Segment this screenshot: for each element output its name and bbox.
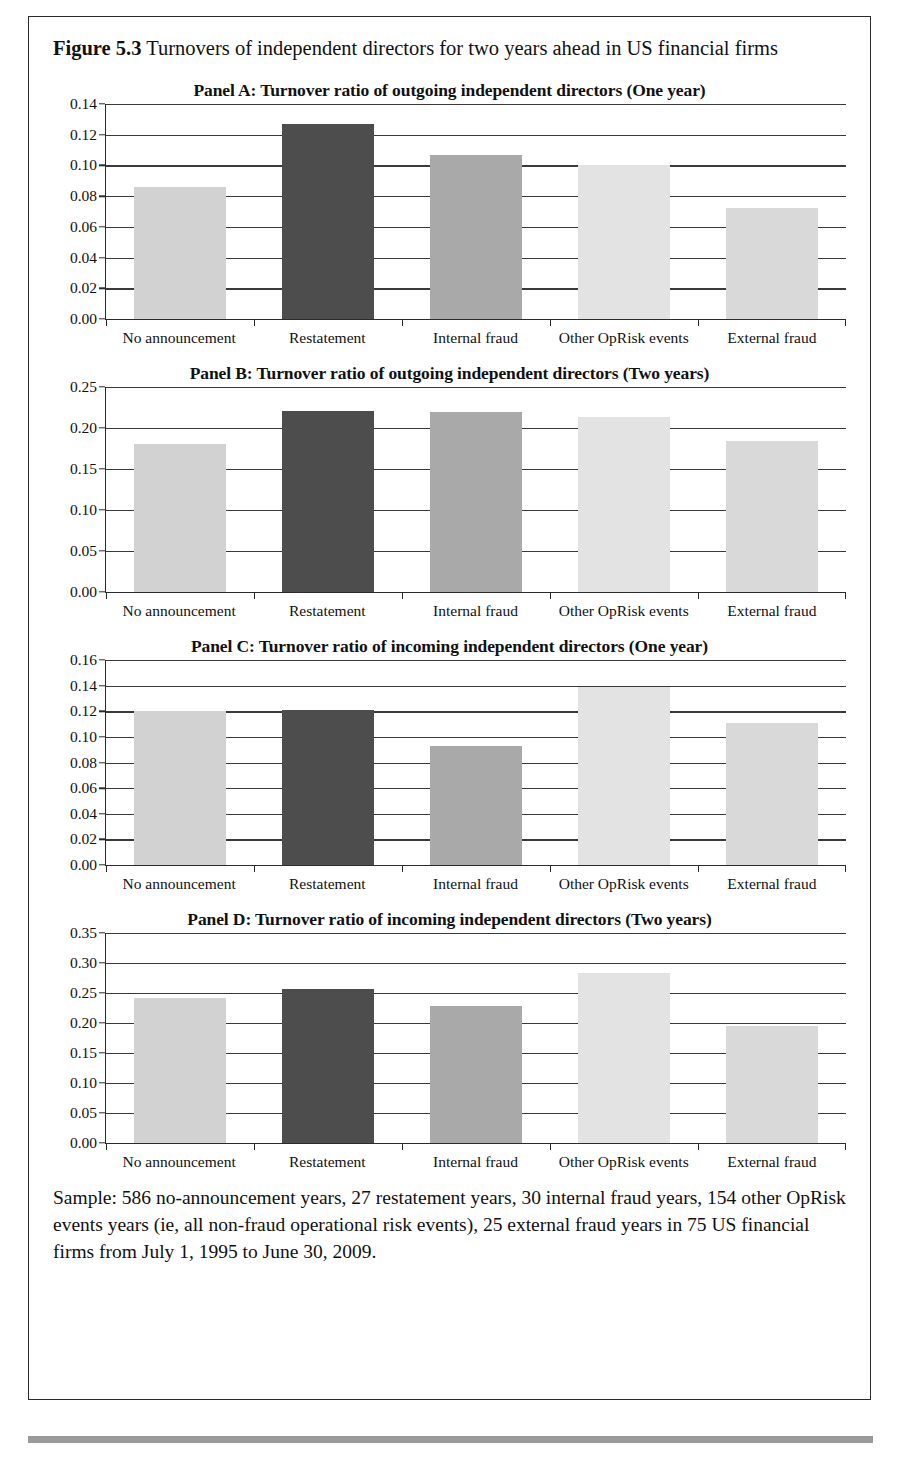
bar-internal-fraud xyxy=(430,155,522,319)
x-axis-tick-label: Other OpRisk events xyxy=(550,1153,698,1171)
bar-slot xyxy=(254,387,402,592)
bar-no-announcement xyxy=(134,711,226,865)
y-axis-tick-label: 0.02 xyxy=(70,832,97,848)
panel-panel-a: Panel A: Turnover ratio of outgoing inde… xyxy=(53,80,846,347)
y-axis-tick-label: 0.10 xyxy=(70,1075,97,1091)
bar-slot xyxy=(550,387,698,592)
bars-layer xyxy=(106,660,846,865)
x-axis-tick-mark xyxy=(106,1143,107,1150)
bar-restatement xyxy=(282,411,374,592)
bar-slot xyxy=(254,933,402,1143)
x-axis-tick-mark xyxy=(845,865,846,872)
figure-caption: Figure 5.3 Turnovers of independent dire… xyxy=(53,35,846,62)
x-axis-tick-label: External fraud xyxy=(698,1153,846,1171)
x-axis-tick-mark xyxy=(254,319,255,326)
panel-panel-b: Panel B: Turnover ratio of outgoing inde… xyxy=(53,363,846,620)
y-axis-tick-label: 0.25 xyxy=(70,985,97,1001)
x-axis-tick-label: External fraud xyxy=(698,329,846,347)
figure-label: Figure xyxy=(53,37,111,59)
x-axis-tick-mark xyxy=(550,592,551,599)
x-axis-tick-mark xyxy=(254,592,255,599)
y-axis: 0.000.050.100.150.200.25 xyxy=(53,387,105,592)
y-axis-tick-label: 0.10 xyxy=(70,158,97,174)
y-axis-tick-label: 0.12 xyxy=(70,704,97,720)
y-axis-tick-label: 0.06 xyxy=(70,219,97,235)
x-axis-tick-label: Internal fraud xyxy=(401,875,549,893)
bar-slot xyxy=(254,660,402,865)
bar-other-oprisk-events xyxy=(578,417,670,592)
x-axis-tick-mark xyxy=(845,319,846,326)
x-axis-tick-label: No announcement xyxy=(105,875,253,893)
x-axis-tick-label: Restatement xyxy=(253,602,401,620)
bar-internal-fraud xyxy=(430,746,522,865)
y-axis-tick-label: 0.30 xyxy=(70,955,97,971)
bars-layer xyxy=(106,104,846,319)
panel-panel-c: Panel C: Turnover ratio of incoming inde… xyxy=(53,636,846,893)
panel-title: Panel C: Turnover ratio of incoming inde… xyxy=(53,636,846,657)
bar-no-announcement xyxy=(134,187,226,319)
bar-slot xyxy=(402,933,550,1143)
x-axis-tick-mark xyxy=(254,1143,255,1150)
x-axis-labels: No announcementRestatementInternal fraud… xyxy=(105,875,846,893)
panels-container: Panel A: Turnover ratio of outgoing inde… xyxy=(29,80,870,1171)
bar-slot xyxy=(106,104,254,319)
bar-slot xyxy=(402,104,550,319)
bar-slot xyxy=(698,933,846,1143)
plot-wrapper: 0.000.050.100.150.200.25 xyxy=(53,387,846,593)
y-axis-tick-label: 0.00 xyxy=(70,1135,97,1151)
plot-wrapper: 0.000.020.040.060.080.100.120.14 xyxy=(53,104,846,320)
y-axis-tick-label: 0.04 xyxy=(70,806,97,822)
plot-wrapper: 0.000.050.100.150.200.250.300.35 xyxy=(53,933,846,1144)
bar-external-fraud xyxy=(726,723,818,865)
x-axis-tick-label: Internal fraud xyxy=(401,329,549,347)
x-axis-tick-label: External fraud xyxy=(698,875,846,893)
y-axis-tick-label: 0.14 xyxy=(70,678,97,694)
x-axis-tick-mark xyxy=(698,865,699,872)
plot-area xyxy=(105,660,846,866)
y-axis-tick-label: 0.00 xyxy=(70,584,97,600)
bar-other-oprisk-events xyxy=(578,687,670,865)
bar-slot xyxy=(550,104,698,319)
y-axis-tick-label: 0.14 xyxy=(70,96,97,112)
x-axis-tick-label: Other OpRisk events xyxy=(550,875,698,893)
y-axis-tick-label: 0.15 xyxy=(70,461,97,477)
bar-external-fraud xyxy=(726,441,818,592)
bar-internal-fraud xyxy=(430,412,522,592)
y-axis-tick-label: 0.00 xyxy=(70,857,97,873)
x-axis-tick-mark xyxy=(845,592,846,599)
bar-internal-fraud xyxy=(430,1006,522,1143)
panel-panel-d: Panel D: Turnover ratio of incoming inde… xyxy=(53,909,846,1171)
bar-slot xyxy=(550,933,698,1143)
y-axis-tick-label: 0.12 xyxy=(70,127,97,143)
x-axis-tick-mark xyxy=(698,319,699,326)
bar-no-announcement xyxy=(134,444,226,592)
bar-restatement xyxy=(282,710,374,865)
y-axis-tick-label: 0.15 xyxy=(70,1045,97,1061)
bar-slot xyxy=(106,933,254,1143)
bar-external-fraud xyxy=(726,208,818,319)
bar-external-fraud xyxy=(726,1026,818,1143)
y-axis: 0.000.020.040.060.080.100.120.14 xyxy=(53,104,105,319)
y-axis-tick-label: 0.16 xyxy=(70,652,97,668)
x-axis-tick-label: Restatement xyxy=(253,329,401,347)
bar-slot xyxy=(550,660,698,865)
y-axis-tick-label: 0.10 xyxy=(70,729,97,745)
bar-slot xyxy=(106,387,254,592)
x-axis-tick-mark xyxy=(402,592,403,599)
y-axis-tick-label: 0.35 xyxy=(70,925,97,941)
y-axis-tick-label: 0.25 xyxy=(70,379,97,395)
x-axis-tick-mark xyxy=(550,1143,551,1150)
y-axis-tick-label: 0.20 xyxy=(70,1015,97,1031)
bar-other-oprisk-events xyxy=(578,165,670,319)
x-axis-tick-label: Restatement xyxy=(253,1153,401,1171)
x-axis-labels: No announcementRestatementInternal fraud… xyxy=(105,602,846,620)
x-axis-tick-label: Restatement xyxy=(253,875,401,893)
figure-caption-text: Turnovers of independent directors for t… xyxy=(146,37,778,59)
figure-note: Sample: 586 no-announcement years, 27 re… xyxy=(53,1185,846,1266)
x-axis-tick-mark xyxy=(106,319,107,326)
x-axis-tick-label: No announcement xyxy=(105,329,253,347)
figure-number: 5.3 xyxy=(116,37,142,59)
bars-layer xyxy=(106,387,846,592)
page-bottom-rule xyxy=(28,1436,873,1443)
bar-slot xyxy=(402,660,550,865)
